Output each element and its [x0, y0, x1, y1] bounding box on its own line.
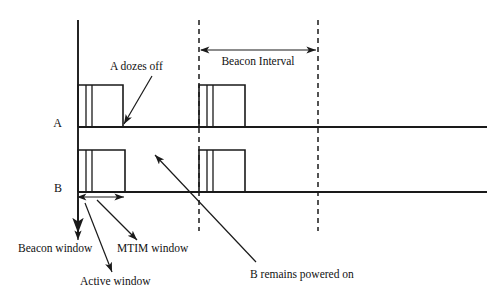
b-pulse-second [199, 150, 245, 192]
a-dozes-off-annotation-label: A dozes off [110, 60, 163, 72]
beacon-interval-measure: Beacon Interval [201, 50, 316, 67]
beacon-boundary-markers [199, 20, 318, 231]
measurement-arrows: Beacon Interval [78, 50, 316, 197]
active-window-annotation-label: Active window [80, 275, 151, 287]
beacon-window-annotation-label: Beacon window [18, 242, 93, 254]
mtim-window-annotation-leader [97, 200, 137, 240]
mtim-window-annotation: MTIM window [97, 200, 189, 254]
b-remains-powered-on-annotation-label: B remains powered on [250, 268, 354, 281]
timing-diagram-figure: A B Beacon Interval A dozes offB remains… [0, 0, 493, 301]
a-pulse-second-outline [199, 85, 245, 127]
a-pulse-first [78, 85, 123, 127]
a-pulse-first-outline [78, 85, 123, 127]
active-window-annotation-leader [85, 203, 112, 272]
a-dozes-off-annotation: A dozes off [110, 60, 163, 124]
station-label-b: B [54, 181, 62, 195]
pulse-train-station-b [78, 150, 245, 192]
beacon-interval-measure-label: Beacon Interval [221, 55, 294, 67]
b-pulse-second-outline [199, 150, 245, 192]
timing-diagram-canvas: A B Beacon Interval A dozes offB remains… [0, 0, 493, 301]
a-dozes-off-annotation-leader [124, 76, 152, 124]
pulse-train-station-a [78, 85, 245, 127]
axis-group: A B [53, 20, 487, 233]
beacon-window-annotation: Beacon window [18, 200, 93, 254]
b-pulse-first [78, 150, 125, 192]
station-label-a: A [53, 116, 62, 130]
annotation-callouts: A dozes offB remains powered onBeacon wi… [18, 60, 354, 287]
mtim-window-annotation-label: MTIM window [117, 242, 189, 254]
b-remains-powered-on-annotation: B remains powered on [155, 155, 354, 281]
b-pulse-first-outline [78, 150, 125, 192]
a-pulse-second [199, 85, 245, 127]
